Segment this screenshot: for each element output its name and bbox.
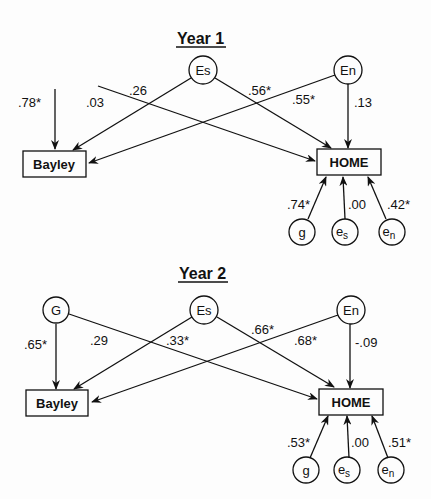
diagram-canvas: Year 1 Es En Bayley HOME g es en .78* .0… [0,0,431,499]
year1-path-g-home: .03 [86,95,104,110]
year2-path-en-resid: .51* [388,435,411,450]
year1-path-es-resid: .00 [348,197,366,212]
year1-node-g: g [298,225,305,240]
year1-path-en-resid: .42* [387,197,410,212]
year1-path-es-home: .56* [248,83,271,98]
year1-title: Year 1 [177,30,224,47]
year2-path-es-bayley: .33* [166,333,189,348]
year1-node-es: Es [195,63,211,78]
year1-node-en-resid: en [383,224,396,241]
year2-title: Year 2 [179,265,226,282]
year2-path-g-home: .29 [90,333,108,348]
year2-path-en-bayley: .68* [294,333,317,348]
year1-node-es-resid: es [336,224,348,241]
year2-path-g-bayley: .65* [24,337,47,352]
year1-path-en-home: .13 [354,95,372,110]
year2-path-en-home: -.09 [355,335,377,350]
year2-node-es-resid: es [338,462,350,479]
year2-node-en: En [343,303,359,318]
year2-path-g-resid: .53* [287,435,310,450]
path-diagram: Year 1 Es En Bayley HOME g es en .78* .0… [0,0,431,499]
year2-node-es: Es [196,303,212,318]
year2-path-es-resid: .00 [351,435,369,450]
year1-path-g-bayley: .78* [18,95,41,110]
year1-node-en: En [340,63,356,78]
year2-node-en-resid: en [382,462,395,479]
year1-path-en-bayley: .55* [292,92,315,107]
year2-node-G: G [51,303,61,318]
year2-node-home: HOME [332,395,371,410]
year2-path-es-home: .66* [251,322,274,337]
year1-node-home: HOME [330,155,369,170]
year2-node-bayley: Bayley [36,396,79,411]
year1-node-bayley: Bayley [33,157,76,172]
year1-path-g-resid: .74* [287,197,310,212]
year2-node-g: g [302,463,309,478]
year1-path-es-bayley: .26 [129,83,147,98]
